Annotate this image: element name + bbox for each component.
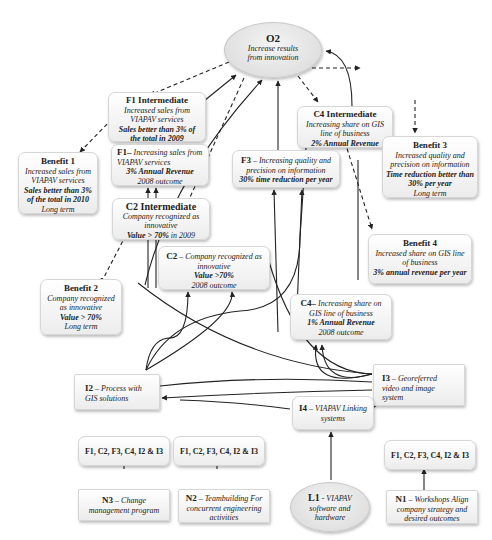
benefit-2-box: Benefit 2 Company recognized as innovati… [40, 279, 122, 335]
f3-outcome-id: F3 [241, 155, 251, 165]
c4-outcome-id: C4– [301, 298, 317, 308]
c2-outcome-id: C2 [166, 251, 177, 261]
f3-outcome-desc: Increasing quality and precision on info… [246, 156, 331, 175]
benefit-1-desc: Increased sales from VIAPAV services [22, 167, 94, 186]
c2-outcome-desc: Company recognized as innovative [185, 252, 262, 271]
benefit-1-term: Long term [22, 205, 94, 215]
n1-initiative-box: N1 – Workshops Align company strategy an… [386, 490, 478, 524]
f3-outcome-line: F3 – Increasing quality and precision on… [237, 156, 335, 175]
i2-enabler-sep: – [93, 384, 101, 393]
objective-id: O2 [225, 34, 321, 44]
benefit-4-box: Benefit 4 Increased share on GIS line of… [368, 234, 472, 284]
i4-enabler-desc: VIAPAV Linking systems [315, 404, 367, 423]
c2-intermediate-box: C2 Intermediate Company recognized as in… [112, 198, 210, 240]
c2-outcome-sep: – [177, 252, 185, 261]
c2-outcome-box: C2 – Company recognized as innovative Va… [158, 246, 270, 290]
benefit-3-title: Benefit 3 [386, 141, 474, 151]
n1-initiative-id: N1 [395, 494, 406, 504]
i2-enabler-box: I2 – Process with GIS solutions [74, 374, 160, 410]
targets-box-n3: F1, C2, F3, C4, I2 & I3 [78, 436, 170, 466]
benefit-3-term: Long term [386, 189, 474, 199]
benefit-3-desc: Increased quality and precision on infor… [386, 151, 474, 170]
targets-box-n2: F1, C2, F3, C4, I2 & I3 [173, 436, 265, 466]
c4-intermediate-target: 2% Annual Revenue [303, 139, 387, 149]
f1-outcome-line: F1– Increasing sales from VIAPAV service… [117, 148, 203, 167]
benefit-2-target: Value > 70% [44, 313, 118, 323]
f1-outcome-outcome: 2008 outcome [117, 177, 203, 187]
l1-initiative-oval: L1 - VIAPAV software and hardware [290, 482, 370, 532]
benefit-2-term: Long term [44, 322, 118, 332]
c2-intermediate-target-year: in 2009 [169, 231, 195, 240]
f3-outcome-sep: – [251, 156, 259, 165]
f1-intermediate-title: F1 Intermediate [114, 96, 200, 106]
c2-outcome-outcome: 2008 outcome [164, 281, 264, 291]
targets-box-n1: F1, C2, F3, C4, I2 & I3 [384, 440, 476, 470]
i4-enabler-box: I4 – VIAPAV Linking systems [292, 396, 374, 430]
benefit-2-desc: Company recognized as innovative [44, 294, 118, 313]
targets-label-n3: F1, C2, F3, C4, I2 & I3 [85, 447, 163, 456]
benefits-dependency-diagram: O2 Increase results from innovation F1 I… [0, 0, 492, 540]
c2-outcome-target: Value >70% [164, 271, 264, 281]
i4-enabler-sep: – [307, 404, 315, 413]
i3-enabler-box: I3 – Georeferred video and image system [373, 364, 465, 406]
c4-outcome-desc: Increasing share on GIS line of business [309, 299, 381, 318]
f1-outcome-box: F1– Increasing sales from VIAPAV service… [111, 144, 209, 186]
c2-intermediate-target-value: Value > 70% [127, 231, 169, 240]
f1-intermediate-box: F1 Intermediate Increased sales from VIA… [108, 92, 206, 142]
objective-o2-oval: O2 Increase results from innovation [224, 22, 322, 78]
benefit-4-target: 3% annual revenue per year [372, 268, 468, 278]
c2-intermediate-title: C2 Intermediate [118, 202, 204, 212]
targets-label-n1: F1, C2, F3, C4, I2 & I3 [391, 451, 469, 460]
c4-intermediate-desc: Increasing share on GIS line of business [303, 120, 387, 139]
c4-outcome-line: C4– Increasing share on GIS line of busi… [296, 299, 386, 318]
c4-intermediate-box: C4 Intermediate Increasing share on GIS … [297, 106, 393, 148]
i2-enabler-id: I2 [85, 383, 93, 393]
n2-initiative-id: N2 [186, 493, 197, 503]
c4-outcome-outcome: 2008 outcome [296, 328, 386, 338]
n3-initiative-box: N3 – Change management program [78, 489, 170, 521]
c2-intermediate-target: Value > 70% in 2009 [118, 231, 204, 241]
benefit-3-target: Time reduction better than 30% per year [386, 170, 474, 189]
f1-outcome-target: 3% Annual Revenue [117, 167, 203, 177]
n3-initiative-id: N3 [102, 495, 113, 505]
i3-enabler-id: I3 [382, 373, 390, 383]
benefit-1-target: Sales better than 3% of the total in 201… [22, 186, 94, 205]
f1-outcome-id: F1– [117, 147, 132, 157]
n2-initiative-box: N2 – Teambuilding For concurrent enginee… [178, 489, 270, 523]
benefit-1-title: Benefit 1 [22, 157, 94, 167]
i4-enabler-id: I4 [299, 403, 307, 413]
f1-intermediate-desc: Increased sales from VIAPAV services [114, 106, 200, 125]
n3-initiative-desc: Change management program [89, 496, 160, 515]
c4-outcome-target: 1% Annual Revenue [296, 318, 386, 328]
c2-intermediate-desc: Company recognized as innovative [118, 212, 204, 231]
l1-initiative-id: L1 [308, 492, 320, 503]
c4-outcome-box: C4– Increasing share on GIS line of busi… [290, 294, 392, 340]
benefit-2-title: Benefit 2 [44, 284, 118, 294]
i3-enabler-sep: – [390, 374, 398, 383]
c2-outcome-line: C2 – Company recognized as innovative [164, 252, 264, 271]
f3-outcome-target: 30% time reduction per year [237, 175, 335, 185]
c4-intermediate-title: C4 Intermediate [303, 110, 387, 120]
n3-initiative-sep: – [113, 496, 121, 505]
f1-intermediate-target: Sales better than 3% of the total in 200… [114, 125, 200, 144]
benefit-3-box: Benefit 3 Increased quality and precisio… [382, 136, 478, 198]
benefit-4-title: Benefit 4 [372, 239, 468, 249]
f3-outcome-box: F3 – Increasing quality and precision on… [232, 150, 340, 188]
benefit-1-box: Benefit 1 Increased sales from VIAPAV se… [18, 152, 98, 214]
targets-label-n2: F1, C2, F3, C4, I2 & I3 [180, 447, 258, 456]
objective-text: Increase results from innovation [225, 44, 321, 63]
n2-initiative-sep: – [197, 494, 205, 503]
benefit-4-desc: Increased share on GIS line of business [372, 249, 468, 268]
